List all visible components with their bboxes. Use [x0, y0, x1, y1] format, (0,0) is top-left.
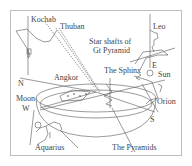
label-star-shafts-1: Star shafts of	[89, 38, 131, 46]
label-sphinx: The Sphinx	[104, 67, 141, 75]
label-south: S	[150, 116, 154, 124]
leo-constellation	[150, 30, 158, 52]
label-north: N	[18, 80, 24, 88]
label-pyramids: The Pyramids	[112, 144, 157, 152]
label-leo: Leo	[153, 23, 165, 31]
sun-icon	[147, 70, 153, 76]
label-orion: Orion	[157, 98, 176, 106]
west-axis	[30, 110, 34, 145]
label-thuban: Thuban	[60, 23, 84, 31]
label-west: W	[22, 105, 30, 113]
label-east: E	[152, 62, 157, 70]
label-sun: Sun	[158, 71, 170, 79]
label-moon: Moon	[16, 95, 35, 103]
label-aquarius: Aquarius	[35, 144, 64, 152]
earth-disc	[36, 84, 156, 112]
label-star-shafts-2: Gt Pyramid	[93, 47, 130, 55]
aquarius-constellation	[36, 126, 48, 144]
moon-icon	[35, 122, 41, 128]
label-kochab: Kochab	[31, 16, 56, 24]
label-angkor: Angkor	[54, 74, 78, 82]
draco-constellation	[16, 29, 57, 42]
